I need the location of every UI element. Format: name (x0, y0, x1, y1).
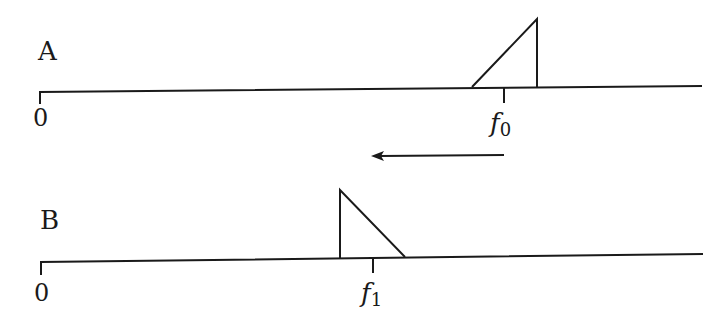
shift-arrow (371, 151, 504, 161)
panel-b-origin-label: 0 (34, 279, 49, 307)
panel-b-spectrum-triangle (340, 190, 405, 258)
panel-a-axis (40, 86, 702, 104)
panel-a-label: A (37, 36, 58, 66)
panel-b-f1-label: f1 (359, 278, 382, 310)
panel-a-origin-label: 0 (33, 104, 48, 132)
panel-a-f0-label: f0 (488, 108, 511, 140)
panel-a: A 0 f0 (33, 19, 702, 140)
panel-b: B 0 f1 (34, 190, 703, 310)
panel-b-label: B (40, 205, 59, 235)
arrow-shaft (380, 155, 504, 156)
spectrum-shift-diagram: A 0 f0 B 0 f1 (0, 0, 727, 321)
panel-a-spectrum-triangle (472, 19, 537, 87)
